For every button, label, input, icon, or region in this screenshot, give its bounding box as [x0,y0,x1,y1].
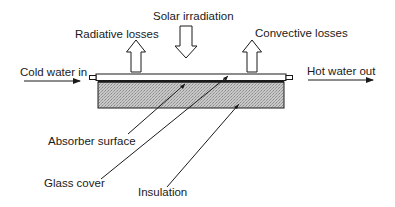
inlet-pipe-stub [90,76,97,80]
radiative-losses-arrow-icon [127,40,146,72]
radiative-losses-label: Radiative losses [75,29,159,41]
insulation-body [98,82,284,108]
outlet-pipe-stub [286,76,293,80]
hot-water-out-label: Hot water out [307,66,375,78]
convective-losses-label: Convective losses [255,28,348,40]
solar-collector-diagram: Solar irradiation Radiative losses Conve… [0,0,395,207]
solar-irradiation-arrow-icon [175,26,197,58]
cold-water-in-label: Cold water in [20,67,87,79]
glass-cover-plate [96,74,286,81]
convective-losses-arrow-icon [243,40,262,72]
glass-cover-label: Glass cover [44,178,105,190]
solar-irradiation-label: Solar irradiation [153,11,234,23]
insulation-label: Insulation [138,187,187,199]
absorber-surface-label: Absorber surface [48,136,136,148]
